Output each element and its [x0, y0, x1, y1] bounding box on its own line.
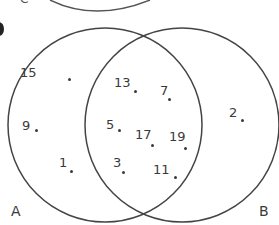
element-point-15 [68, 78, 71, 81]
element-label-2: 2 [229, 106, 237, 119]
element-point-11 [174, 176, 177, 179]
element-point-19 [184, 147, 187, 150]
element-label-1: 1 [59, 156, 67, 169]
element-label-7: 7 [160, 84, 168, 97]
set-a-label: A [11, 204, 21, 218]
set-a-circle [8, 28, 202, 222]
top-set-c-arc [50, 0, 150, 11]
element-label-17: 17 [135, 128, 152, 141]
element-point-3 [122, 171, 125, 174]
element-label-11: 11 [153, 163, 170, 176]
element-label-9: 9 [22, 119, 30, 132]
set-b-label: B [259, 204, 269, 218]
element-label-19: 19 [169, 130, 186, 143]
element-point-2 [241, 119, 244, 122]
set-c-label: C [20, 0, 28, 5]
element-point-5 [118, 129, 121, 132]
element-label-15: 15 [20, 66, 37, 79]
element-label-13: 13 [114, 76, 131, 89]
element-point-13 [134, 90, 137, 93]
element-label-5: 5 [106, 118, 114, 131]
element-point-9 [35, 129, 38, 132]
element-label-3: 3 [113, 156, 121, 169]
element-point-1 [70, 170, 73, 173]
element-point-17 [151, 144, 154, 147]
element-point-7 [168, 98, 171, 101]
